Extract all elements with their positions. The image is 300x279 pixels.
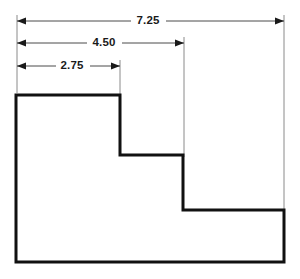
dimension-label-4-50: 4.50 (92, 36, 115, 48)
drawing-svg: 7.25 4.50 2.75 (0, 0, 300, 279)
dimension-label-2-75: 2.75 (60, 59, 84, 71)
engineering-drawing-canvas: 7.25 4.50 2.75 (0, 0, 300, 279)
dimension-label-7-25: 7.25 (136, 14, 160, 26)
